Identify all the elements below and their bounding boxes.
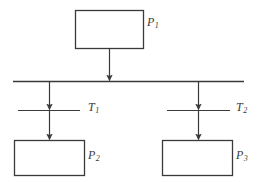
place-p1-label-subscript: 1 (155, 21, 159, 30)
place-p2-box (15, 141, 85, 176)
transition-t1-label: T1 (88, 101, 99, 113)
place-p3-box (163, 141, 233, 176)
transition-t2-label: T2 (236, 101, 247, 113)
diagram-canvas (0, 0, 259, 182)
place-p3-label-subscript: 3 (244, 154, 248, 163)
place-p2-label-text: P (88, 148, 95, 162)
transition-t1-label-subscript: 1 (95, 106, 99, 115)
transition-t2-label-subscript: 2 (243, 106, 247, 115)
petri-net-diagram: P1 T1 T2 P2 P3 (0, 0, 259, 182)
place-p3-label: P3 (236, 149, 247, 161)
place-p1-box (76, 11, 144, 49)
transition-t2-label-text: T (236, 100, 243, 114)
place-p2-label-subscript: 2 (96, 154, 100, 163)
place-p3-label-text: P (236, 148, 243, 162)
transition-t1-label-text: T (88, 100, 95, 114)
place-p1-label-text: P (147, 15, 154, 29)
place-p2-label: P2 (88, 149, 99, 161)
place-p1-label: P1 (147, 16, 158, 28)
